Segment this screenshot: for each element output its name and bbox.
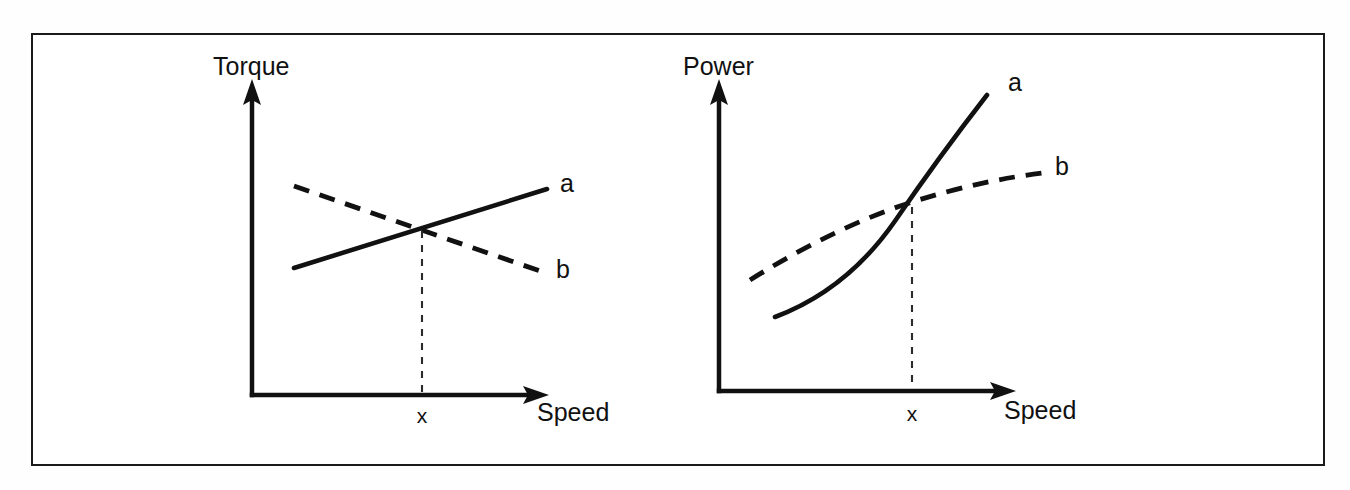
power-series-a-label: a xyxy=(1008,68,1022,96)
torque-chart-panel: Torque Speed x a b xyxy=(33,35,673,468)
power-series-b-label: b xyxy=(1055,152,1069,180)
power-x-axis xyxy=(719,382,1016,400)
figure-frame: Torque Speed x a b xyxy=(31,33,1325,466)
torque-chart-svg: Torque Speed x a b xyxy=(33,35,673,468)
power-y-axis xyxy=(710,79,728,391)
torque-y-axis-label: Torque xyxy=(213,52,289,80)
torque-y-axis xyxy=(243,79,261,395)
torque-x-tick-label: x xyxy=(417,404,428,427)
torque-x-axis-label: Speed xyxy=(537,398,609,426)
torque-x-axis xyxy=(252,386,549,404)
torque-series-a-label: a xyxy=(560,169,574,197)
power-chart-panel: Power Speed x a b xyxy=(673,35,1323,468)
figure-root: Torque Speed x a b xyxy=(0,0,1350,490)
torque-series-b-label: b xyxy=(556,255,570,283)
power-y-axis-label: Power xyxy=(683,52,754,80)
power-chart-svg: Power Speed x a b xyxy=(673,35,1323,468)
power-x-axis-label: Speed xyxy=(1004,396,1076,424)
power-x-tick-label: x xyxy=(907,402,918,425)
power-series-b-curve xyxy=(750,173,1042,280)
power-series-a-curve xyxy=(775,95,987,317)
